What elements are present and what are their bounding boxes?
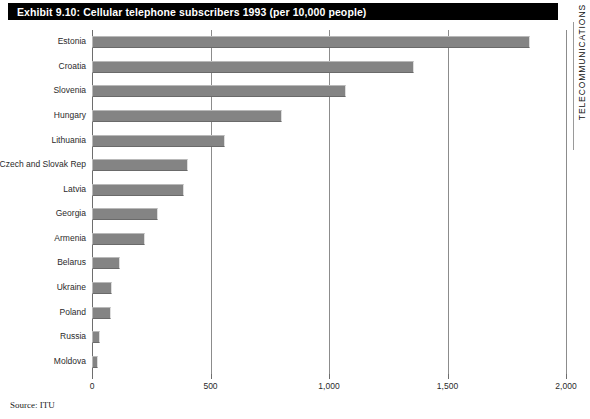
gridline	[566, 30, 567, 374]
axis-tick-label: 500	[203, 381, 217, 391]
category-label: Moldova	[0, 356, 86, 366]
gridline	[329, 30, 330, 374]
category-label: Croatia	[0, 61, 86, 71]
bar	[92, 208, 158, 220]
axis-tick	[92, 374, 93, 379]
category-label: Ukraine	[0, 282, 86, 292]
axis-tick-label: 0	[90, 381, 95, 391]
gridline	[448, 30, 449, 374]
axis-tick-label: 1,500	[437, 381, 458, 391]
category-label: Belarus	[0, 257, 86, 267]
axis-tick	[211, 374, 212, 379]
category-label: Georgia	[0, 208, 86, 218]
axis-tick	[566, 374, 567, 379]
bar	[92, 159, 188, 171]
axis-tick-label: 2,000	[555, 381, 576, 391]
bar	[92, 36, 530, 48]
category-label: Slovenia	[0, 85, 86, 95]
bar	[92, 331, 100, 343]
axis-tick-label: 1,000	[318, 381, 339, 391]
bar	[92, 233, 145, 245]
bar	[92, 307, 111, 319]
bar	[92, 356, 98, 368]
exhibit-title-banner: Exhibit 9.10: Cellular telephone subscri…	[8, 3, 558, 20]
category-label: Armenia	[0, 233, 86, 243]
bar-chart: EstoniaCroatiaSloveniaHungaryLithuaniaCz…	[0, 26, 590, 376]
category-label: Poland	[0, 307, 86, 317]
value-axis-line	[92, 30, 93, 374]
category-label: Czech and Slovak Rep	[0, 159, 86, 169]
category-label: Latvia	[0, 184, 86, 194]
bar	[92, 282, 112, 294]
category-label: Russia	[0, 331, 86, 341]
source-note: Source: ITU	[10, 400, 55, 410]
plot-area: 05001,0001,5002,000	[92, 30, 566, 374]
category-label: Hungary	[0, 110, 86, 120]
axis-tick	[329, 374, 330, 379]
bar	[92, 184, 184, 196]
gridline	[211, 30, 212, 374]
category-axis-labels: EstoniaCroatiaSloveniaHungaryLithuaniaCz…	[0, 30, 86, 374]
bar	[92, 61, 414, 73]
bar	[92, 135, 225, 147]
axis-tick	[448, 374, 449, 379]
bar	[92, 85, 346, 97]
bar	[92, 257, 120, 269]
category-label: Estonia	[0, 36, 86, 46]
page-title: Exhibit 9.10: Cellular telephone subscri…	[8, 6, 366, 18]
bar	[92, 110, 282, 122]
category-label: Lithuania	[0, 135, 86, 145]
